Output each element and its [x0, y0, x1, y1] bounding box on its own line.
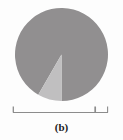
scale-bar [0, 100, 123, 120]
figure-container: (b) [0, 0, 123, 140]
pie-slice-major-share [15, 8, 108, 101]
pie-chart [0, 0, 123, 108]
figure-caption: (b) [0, 120, 123, 134]
